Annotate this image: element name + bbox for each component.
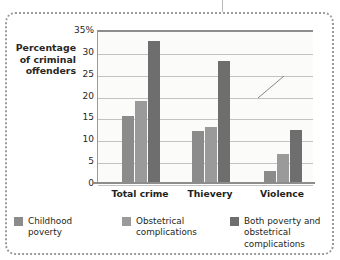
y-tick-label-15: 15 [64,112,94,122]
legend-item-1: Obstetrical complications [122,216,197,239]
bar-total-crime-series-2 [148,41,160,183]
x-axis-baseline [93,182,315,184]
legend-label-0: Childhood poverty [28,216,72,239]
annotation-leader-line [258,76,286,98]
y-tick-label-10: 10 [64,134,94,144]
gridline-0 [98,185,313,186]
bar-total-crime-series-1 [135,101,147,183]
legend-swatch-icon-2 [230,217,239,226]
legend-label-2: Both poverty and obstetrical complicatio… [244,216,324,250]
y-tick-label-0: 0 [64,178,94,188]
y-tick-label-25: 25 [64,69,94,79]
x-axis-category-labels: Total crimeThieveryViolence [97,188,313,202]
page-bleed-artifact [222,0,223,12]
bar-violence-series-1 [277,154,289,183]
bar-thievery-series-1 [205,127,217,183]
bar-thievery-series-2 [218,61,230,183]
legend-item-0: Childhood poverty [14,216,72,239]
category-label-violence: Violence [242,188,322,199]
y-axis-tick-labels: 05101520253035% [62,30,94,183]
legend-swatch-icon-1 [122,217,131,226]
y-tick-label-20: 20 [64,91,94,101]
legend-item-2: Both poverty and obstetrical complicatio… [230,216,324,250]
gridline-30 [98,54,313,55]
chart-legend: Childhood povertyObstetrical complicatio… [14,216,324,248]
legend-label-1: Obstetrical complications [136,216,197,239]
category-label-thievery: Thievery [170,188,250,199]
category-label-total-crime: Total crime [100,188,180,199]
y-tick-label-5: 5 [64,156,94,166]
y-tick-label-35: 35% [64,25,94,35]
bar-thievery-series-0 [192,131,204,183]
y-tick-label-30: 30 [64,47,94,57]
legend-swatch-icon-0 [14,217,23,226]
bar-violence-series-2 [290,130,302,183]
bar-total-crime-series-0 [122,116,134,183]
plot-area [97,30,313,183]
